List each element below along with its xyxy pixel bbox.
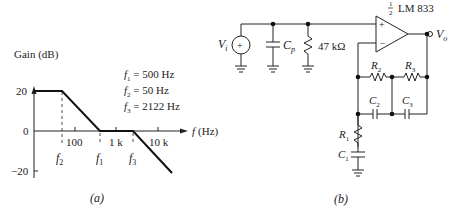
resistor-r2-icon	[370, 73, 386, 81]
r2-label: R2	[370, 59, 382, 74]
legend-f3: f3 = 2122 Hz	[124, 100, 180, 115]
opamp-fraction-den: 2	[389, 9, 393, 17]
x-axis-label: f(Hz)	[192, 125, 219, 138]
resistor-47k-label: 47 kΩ	[318, 40, 345, 52]
cp-label: Cp	[283, 38, 295, 54]
caption-b: (b)	[334, 192, 348, 206]
opamp-part-label: LM 833	[398, 2, 434, 14]
output-label: Vo	[436, 27, 447, 43]
x-tick-label: 100	[66, 136, 83, 148]
opamp-fraction-num: 1	[389, 0, 393, 8]
x-axis-arrow-icon	[180, 129, 188, 134]
x-tick-label: 10 k	[149, 136, 169, 148]
source-plus-sign: +	[237, 40, 243, 51]
resistor-r3-icon	[404, 73, 420, 81]
ground-icon	[235, 66, 247, 72]
c2-label: C2	[369, 94, 380, 109]
x-tick-label: 1 k	[109, 136, 123, 148]
opamp-minus-label: −	[380, 38, 386, 49]
y-tick-label: −20	[11, 165, 29, 177]
opamp-plus-label: +	[379, 19, 385, 30]
legend-f2: f2 = 50 Hz	[124, 84, 169, 99]
resistor-47k-icon	[304, 36, 312, 54]
marker-f3: f3	[129, 151, 136, 167]
r1-label: R1	[338, 128, 350, 143]
legend: f1 = 500 Hz f2 = 50 Hz f3 = 2122 Hz	[124, 68, 180, 115]
ground-icon	[267, 66, 279, 72]
y-axis-label: Gain (dB)	[14, 48, 59, 61]
source-label: Vi	[218, 37, 228, 53]
c1-label: C1	[338, 148, 349, 163]
marker-f1: f1	[96, 151, 103, 167]
r3-label: R3	[404, 59, 416, 74]
c3-label: C3	[402, 94, 413, 109]
y-tick-label: 0	[23, 125, 29, 137]
marker-f2: f2	[56, 151, 63, 167]
y-tick-label: 20	[16, 85, 28, 97]
legend-f1: f1 = 500 Hz	[124, 68, 174, 83]
caption-a: (a)	[90, 191, 104, 205]
ground-icon	[352, 170, 364, 176]
ground-icon	[302, 66, 314, 72]
bode-plot: 20 0 −20 100 1 k 10 k f2 f1 f3 Gain (dB)…	[11, 48, 219, 205]
